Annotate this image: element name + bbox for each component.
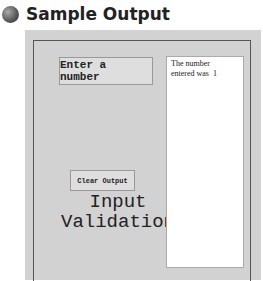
clear-output-button[interactable]: Clear Output — [70, 170, 135, 191]
enter-number-button[interactable]: Enter a number — [59, 57, 153, 85]
applet-frame: Enter a number Clear Output Input Valida… — [33, 40, 251, 281]
gray-sphere-icon — [2, 6, 19, 23]
applet-panel: Enter a number Clear Output Input Valida… — [25, 30, 261, 280]
section-heading: Sample Output — [2, 4, 170, 24]
heading-text: Sample Output — [26, 4, 170, 24]
output-text-area[interactable]: The number entered was 1 — [166, 56, 244, 268]
